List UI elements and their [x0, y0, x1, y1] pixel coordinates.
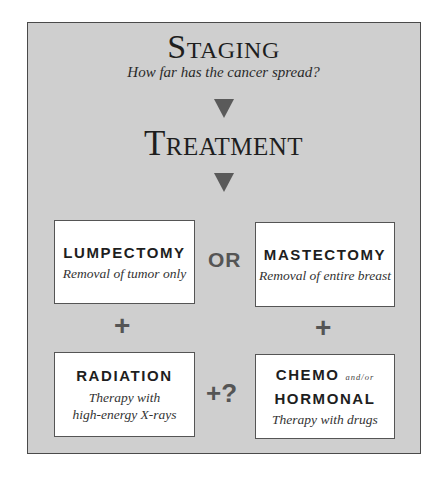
and-or-qualifier: and/or	[346, 368, 375, 387]
or-label: OR	[208, 248, 242, 272]
hormonal-title: HORMONAL	[274, 389, 375, 408]
chemo-hormonal-box: CHEMO and/or HORMONAL Therapy with drugs	[255, 354, 395, 439]
radiation-description-line1: Therapy with	[72, 389, 176, 406]
radiation-title: RADIATION	[76, 366, 173, 385]
radiation-description-line2: high-energy X-rays	[72, 406, 176, 423]
down-arrow-icon	[214, 99, 234, 118]
chemo-description: Therapy with drugs	[272, 411, 378, 428]
mastectomy-description: Removal of entire breast	[259, 267, 391, 284]
mastectomy-title: MASTECTOMY	[264, 245, 386, 264]
chemo-title: CHEMO	[276, 365, 340, 384]
lumpectomy-title: LUMPECTOMY	[63, 243, 185, 262]
plus-icon: +	[114, 310, 130, 342]
staging-subtitle: How far has the cancer spread?	[0, 64, 447, 81]
plus-icon: +	[315, 312, 331, 344]
down-arrow-icon	[214, 173, 234, 192]
treatment-title: Treatment	[0, 124, 447, 164]
plus-maybe-label: +?	[206, 378, 237, 409]
staging-title: Staging	[0, 28, 447, 66]
lumpectomy-description: Removal of tumor only	[63, 265, 186, 282]
mastectomy-box: MASTECTOMY Removal of entire breast	[255, 222, 395, 307]
radiation-box: RADIATION Therapy with high-energy X-ray…	[54, 352, 195, 437]
lumpectomy-box: LUMPECTOMY Removal of tumor only	[54, 220, 195, 304]
